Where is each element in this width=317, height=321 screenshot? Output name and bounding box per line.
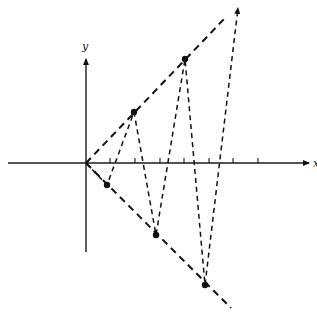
x-axis-ticks [110,158,258,163]
upper-ray [86,17,226,163]
point-p1 [104,182,110,188]
y-axis-label: y [81,40,89,53]
point-p3 [153,232,159,238]
point-p2 [131,109,137,115]
zigzag-path [86,8,238,285]
point-p5 [202,282,208,288]
x-axis-label: x [313,157,317,170]
point-p4 [182,56,188,62]
cobweb-diagram: y x [0,0,317,321]
